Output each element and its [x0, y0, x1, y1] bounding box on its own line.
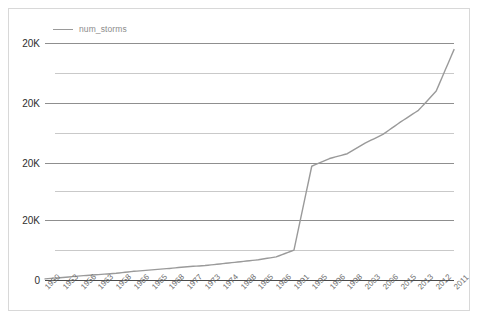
- x-axis-tick-label: 1998: [345, 272, 364, 291]
- x-axis-tick-label: 1973: [203, 272, 222, 291]
- x-axis-tick-label: 1958: [114, 272, 133, 291]
- x-axis-tick-label: 2003: [363, 272, 382, 291]
- x-axis-tick-label: 2013: [416, 272, 435, 291]
- x-axis-tick-label: 1977: [185, 272, 204, 291]
- chart-figure: num_storms 20K20K20K20K0 195019531956196…: [8, 8, 470, 311]
- x-axis-tick-label: 1965: [150, 272, 169, 291]
- x-axis-tick-label: 2006: [381, 272, 400, 291]
- x-axis-tick-label: 1950: [43, 272, 62, 291]
- x-axis-tick-label: 1995: [310, 272, 329, 291]
- x-axis-tick-label: 1974: [221, 272, 240, 291]
- x-axis-tick-label: 1963: [96, 272, 115, 291]
- x-axis-tick-label: 1986: [274, 272, 293, 291]
- x-axis-tick-label: 2011: [452, 273, 471, 292]
- x-axis-tick-label: 1968: [167, 272, 186, 291]
- x-axis-tick-label: 1956: [79, 272, 98, 291]
- x-axis-tick-label: 2015: [399, 272, 418, 291]
- x-axis-tick-label: 1953: [61, 272, 80, 291]
- x-axis-labels: 1950195319561963195819661965196819771973…: [9, 9, 478, 320]
- x-axis-tick-label: 1996: [328, 272, 347, 291]
- x-axis-tick-label: 2012: [434, 272, 453, 291]
- x-axis-tick-label: 1988: [239, 272, 258, 291]
- x-axis-tick-label: 1991: [292, 272, 311, 291]
- x-axis-tick-label: 1985: [256, 272, 275, 291]
- x-axis-tick-label: 1966: [132, 272, 151, 291]
